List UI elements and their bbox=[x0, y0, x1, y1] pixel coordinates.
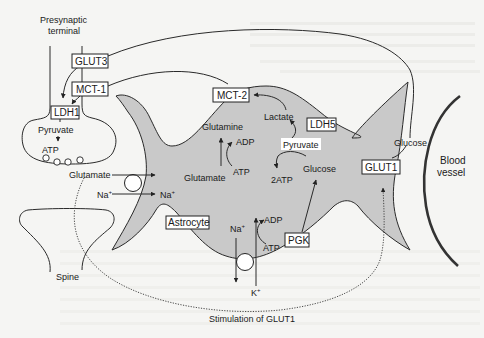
mct1-label: MCT-1 bbox=[76, 84, 106, 95]
atp-bottom-label: ATP bbox=[263, 243, 280, 253]
astro-pyruvate-label: Pyruvate bbox=[283, 140, 319, 150]
pgk-label: PGK bbox=[288, 235, 309, 246]
astrocyte-label: Astrocyte bbox=[168, 217, 210, 228]
mct2-to-mct1-path bbox=[108, 71, 228, 86]
blood-vessel-label-2: vessel bbox=[437, 167, 465, 178]
synapse-glutamate-label: Glutamate bbox=[69, 170, 111, 180]
presynaptic-label-1: Presynaptic bbox=[40, 15, 88, 25]
ldh5-label: LDH5 bbox=[310, 119, 336, 130]
blood-vessel-wall bbox=[424, 96, 460, 266]
neuron-pyruvate-label: Pyruvate bbox=[38, 125, 74, 135]
astro-glutamate-label: Glutamate bbox=[184, 173, 226, 183]
vessel-glucose-label: Glucose bbox=[394, 138, 427, 148]
synapse-na-label: Na+ bbox=[97, 189, 113, 200]
spine-label: Spine bbox=[56, 272, 79, 282]
adp-top-label: ADP bbox=[236, 137, 255, 147]
glut3-label: GLUT3 bbox=[75, 56, 108, 67]
presynaptic-label-2: terminal bbox=[48, 26, 80, 36]
lactate-label: Lactate bbox=[264, 112, 294, 122]
diagram-canvas: GLUT3 MCT-1 LDH1 MCT-2 LDH5 GLUT1 Astroc… bbox=[0, 0, 484, 338]
ldh1-label: LDH1 bbox=[54, 107, 80, 118]
glutamate-transporter bbox=[125, 175, 142, 192]
diagram-svg: GLUT3 MCT-1 LDH1 MCT-2 LDH5 GLUT1 Astroc… bbox=[0, 0, 484, 338]
astro-glucose-label: Glucose bbox=[303, 164, 336, 174]
glutamine-label: Glutamine bbox=[202, 122, 243, 132]
two-atp-label: 2ATP bbox=[271, 175, 293, 185]
pump-k-label: K+ bbox=[251, 287, 261, 298]
neuron-atp-label: ATP bbox=[42, 145, 59, 155]
atp-top-label: ATP bbox=[233, 167, 250, 177]
na-k-pump bbox=[237, 254, 254, 271]
mct1-to-ldh1-arrow bbox=[72, 96, 80, 104]
glut1-label: GLUT1 bbox=[365, 162, 398, 173]
adp-bottom-label: ADP bbox=[264, 215, 283, 225]
mct2-label: MCT-2 bbox=[217, 90, 247, 101]
blood-vessel-label-1: Blood bbox=[440, 155, 466, 166]
stimulation-label: Stimulation of GLUT1 bbox=[209, 314, 295, 324]
